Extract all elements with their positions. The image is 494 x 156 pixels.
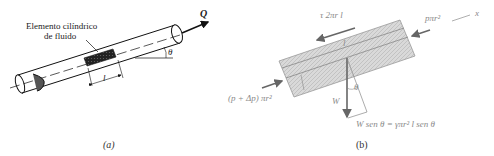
caption-a: (a)	[103, 139, 115, 150]
weight-label: W	[332, 96, 340, 106]
weight-component-label: W sen θ = γπr² l sen θ	[356, 119, 435, 129]
element-label: Elemento cilíndrico	[26, 21, 97, 31]
flow-rate-label: Q	[200, 8, 207, 19]
length-label: l	[103, 73, 106, 83]
shear-force-label: τ 2πr l	[320, 10, 343, 20]
x-axis-label: x	[475, 8, 479, 18]
element-label-line2: de fluido	[44, 31, 76, 41]
left-pressure-label: (p + Δp) πr²	[228, 93, 272, 103]
angle-label: θ	[168, 47, 172, 57]
length-label-b: l	[343, 38, 346, 48]
right-pressure-label: pπr²	[425, 13, 440, 23]
free-body-diagram	[262, 15, 470, 118]
angle-label-b: θ	[354, 82, 358, 92]
caption-b: (b)	[356, 139, 368, 150]
pipe-diagram	[10, 22, 208, 94]
